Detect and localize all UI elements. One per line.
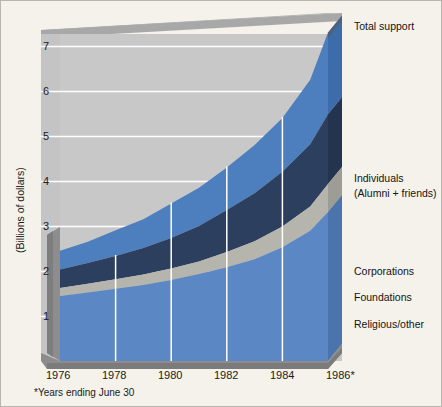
x-tick-1976: 1976 <box>46 369 70 381</box>
y-axis-title: (Billions of dollars) <box>14 167 26 253</box>
left-side-face-group <box>47 227 60 361</box>
y-tick-7: 7 <box>43 40 49 52</box>
stacked-area-chart: 7 6 5 4 3 2 1 (Billions of dollars) 1976… <box>1 1 441 406</box>
label-individuals-line1: Individuals <box>354 172 404 184</box>
y-tick-3: 3 <box>43 220 49 232</box>
y-tick-1: 1 <box>43 310 49 322</box>
x-tick-1980: 1980 <box>158 369 182 381</box>
x-tick-1978: 1978 <box>102 369 126 381</box>
y-tick-4: 4 <box>43 175 49 187</box>
x-tick-labels: 1976 1978 1980 1982 1984 1986* <box>46 369 355 381</box>
chart-canvas: 7 6 5 4 3 2 1 (Billions of dollars) 1976… <box>1 1 442 407</box>
right-side-face-group <box>328 16 342 362</box>
y-tick-5: 5 <box>43 130 49 142</box>
y-tick-2: 2 <box>43 265 49 277</box>
y-tick-6: 6 <box>43 85 49 97</box>
left-face-shadow <box>47 231 53 357</box>
series-labels: Total support Individuals (Alumni + frie… <box>354 20 437 330</box>
figure-frame: 7 6 5 4 3 2 1 (Billions of dollars) 1976… <box>0 0 442 407</box>
label-foundations: Foundations <box>354 291 412 303</box>
label-individuals-line2: (Alumni + friends) <box>354 187 437 199</box>
footnote: *Years ending June 30 <box>34 387 135 398</box>
x-tick-1986: 1986* <box>326 369 355 381</box>
label-religious-other: Religious/other <box>354 318 425 330</box>
x-tick-1984: 1984 <box>270 369 294 381</box>
x-tick-1982: 1982 <box>214 369 238 381</box>
label-corporations: Corporations <box>354 265 414 277</box>
label-total-support: Total support <box>354 20 414 32</box>
right-face-religious <box>328 195 342 361</box>
